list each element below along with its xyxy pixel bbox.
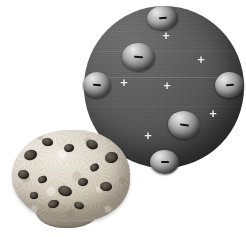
positive-left: +	[120, 76, 128, 89]
figure-canvas: ++++++	[0, 0, 246, 237]
positive-top: +	[162, 29, 170, 42]
positive-right: +	[209, 107, 217, 120]
electron-bottom	[150, 150, 180, 175]
minus-sign-icon	[225, 84, 233, 87]
positive-upper-right: +	[197, 53, 205, 66]
minus-sign-icon	[134, 56, 143, 59]
chip-muffin-photo	[10, 130, 134, 234]
muffin-body	[12, 130, 130, 222]
minus-sign-icon	[158, 17, 166, 20]
positive-bottom: +	[144, 129, 152, 142]
minus-sign-icon	[160, 161, 168, 163]
minus-sign-icon	[179, 123, 188, 126]
positive-center: +	[163, 79, 171, 92]
minus-sign-icon	[93, 84, 101, 87]
